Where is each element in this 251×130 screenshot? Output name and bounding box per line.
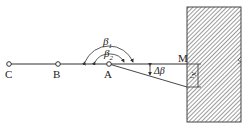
label-C: C [5, 68, 12, 80]
point-B [56, 62, 61, 67]
wall [187, 7, 241, 122]
label-A: A [104, 68, 112, 80]
label-delta-beta: Δβ [153, 65, 165, 76]
label-M: M [178, 52, 188, 64]
survey-diagram: C B A M β1 β2 Δβ x1 [0, 0, 251, 130]
point-A [107, 62, 112, 67]
label-B: B [53, 68, 60, 80]
point-C [7, 62, 12, 67]
sight-line [109, 64, 187, 87]
